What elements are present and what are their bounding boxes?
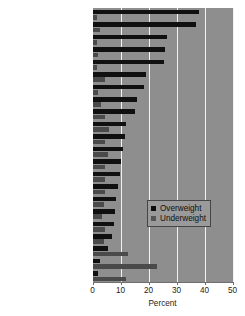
legend-swatch-overweight-icon — [151, 206, 156, 211]
bar-overweight — [93, 197, 117, 202]
bar-underweight — [93, 40, 97, 45]
legend-label-overweight: Overweight — [160, 204, 201, 213]
bar-overweight — [93, 85, 145, 90]
bar-overweight — [93, 222, 114, 227]
bar-group — [0, 70, 244, 82]
bar-overweight — [93, 271, 99, 276]
bar-group — [0, 33, 244, 45]
legend-item-underweight: Underweight — [151, 214, 206, 224]
bar-group — [0, 58, 244, 70]
bar-overweight — [93, 122, 127, 127]
bar-underweight — [93, 165, 106, 170]
bar-overweight — [93, 259, 100, 264]
bar-overweight — [93, 134, 125, 139]
x-tick-40 — [205, 282, 206, 285]
x-tick-label-10: 10 — [106, 286, 136, 295]
legend-item-overweight: Overweight — [151, 204, 206, 214]
x-tick-0 — [93, 282, 94, 285]
x-tick-label-30: 30 — [162, 286, 192, 295]
chart-legend: Overweight Underweight — [147, 200, 211, 227]
bar-overweight — [93, 97, 138, 102]
bar-underweight — [93, 227, 106, 232]
bar-underweight — [93, 127, 110, 132]
x-tick-50 — [233, 282, 234, 285]
legend-swatch-underweight-icon — [151, 216, 156, 221]
bar-group — [0, 8, 244, 20]
bar-underweight — [93, 252, 128, 257]
bar-underweight — [93, 28, 100, 33]
x-tick-30 — [177, 282, 178, 285]
bar-underweight — [93, 264, 158, 269]
bar-group — [0, 133, 244, 145]
bar-overweight — [93, 47, 166, 52]
bar-group — [0, 157, 244, 169]
bar-group — [0, 182, 244, 194]
x-axis-title: Percent — [93, 299, 233, 308]
bar-group — [0, 83, 244, 95]
bar-overweight — [93, 159, 121, 164]
bar-overweight — [93, 10, 199, 15]
bar-underweight — [93, 190, 106, 195]
bar-group — [0, 145, 244, 157]
x-axis-line — [93, 282, 233, 283]
bar-underweight — [93, 77, 106, 82]
bar-group — [0, 257, 244, 269]
bar-group — [0, 245, 244, 257]
bar-underweight — [93, 140, 106, 145]
bar-underweight — [93, 90, 99, 95]
bar-overweight — [93, 72, 146, 77]
legend-label-underweight: Underweight — [160, 214, 206, 223]
bar-overweight — [93, 234, 113, 239]
bar-underweight — [93, 177, 106, 182]
bar-underweight — [93, 53, 99, 58]
bar-underweight — [93, 15, 97, 20]
x-tick-label-0: 0 — [78, 286, 108, 295]
bar-group — [0, 108, 244, 120]
bar-group — [0, 120, 244, 132]
bar-group — [0, 45, 244, 57]
x-tick-10 — [121, 282, 122, 285]
bar-underweight — [93, 152, 108, 157]
x-tick-label-20: 20 — [134, 286, 164, 295]
bar-overweight — [93, 147, 124, 152]
bar-underweight — [93, 115, 106, 120]
bar-underweight — [93, 102, 101, 107]
bar-underweight — [93, 277, 127, 282]
bar-overweight — [93, 109, 135, 114]
chart-figure: Arab Rep. of EgyptTurkeyBoliviaNicaragua… — [0, 0, 244, 316]
bar-overweight — [93, 22, 196, 27]
x-tick-20 — [149, 282, 150, 285]
bar-group — [0, 270, 244, 282]
bar-group — [0, 95, 244, 107]
bar-underweight — [93, 202, 104, 207]
bar-underweight — [93, 65, 97, 70]
x-tick-label-50: 50 — [218, 286, 245, 295]
bar-overweight — [93, 184, 118, 189]
bar-group — [0, 20, 244, 32]
bar-group — [0, 170, 244, 182]
bar-overweight — [93, 209, 116, 214]
bar-overweight — [93, 35, 167, 40]
bar-group — [0, 232, 244, 244]
bar-underweight — [93, 214, 103, 219]
bar-overweight — [93, 172, 120, 177]
bar-overweight — [93, 246, 108, 251]
bar-underweight — [93, 239, 104, 244]
bar-overweight — [93, 60, 164, 65]
x-tick-label-40: 40 — [190, 286, 220, 295]
